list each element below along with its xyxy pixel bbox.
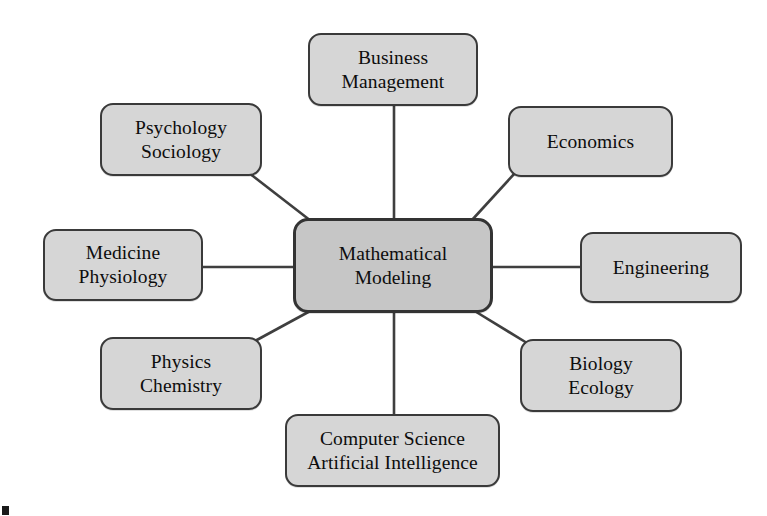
node-computer-science-ai[interactable]: Computer ScienceArtificial Intelligence [285, 414, 500, 487]
node-economics[interactable]: Economics [508, 106, 673, 177]
node-physics-chemistry-line-1: Physics [151, 350, 211, 374]
node-physics-chemistry-line-2: Chemistry [140, 374, 222, 398]
node-engineering[interactable]: Engineering [580, 232, 742, 303]
node-economics-line-1: Economics [547, 130, 635, 154]
node-biology-ecology-line-1: Biology [569, 352, 633, 376]
node-computer-science-ai-line-1: Computer Science [320, 427, 465, 451]
node-mathematical-modeling[interactable]: MathematicalModeling [293, 218, 493, 313]
node-business-management-line-2: Management [342, 70, 445, 94]
scan-artifact [2, 506, 9, 515]
node-business-management[interactable]: BusinessManagement [308, 33, 478, 106]
node-mathematical-modeling-line-1: Mathematical [339, 242, 447, 266]
node-psychology-sociology[interactable]: PsychologySociology [100, 103, 262, 176]
node-medicine-physiology[interactable]: MedicinePhysiology [43, 229, 203, 301]
edge-center-biology-ecology [473, 310, 527, 343]
node-biology-ecology[interactable]: BiologyEcology [520, 339, 682, 412]
edge-center-physics-chemistry [255, 310, 312, 341]
node-psychology-sociology-line-1: Psychology [135, 116, 227, 140]
node-computer-science-ai-line-2: Artificial Intelligence [307, 451, 478, 475]
node-medicine-physiology-line-1: Medicine [86, 241, 160, 265]
node-business-management-line-1: Business [358, 46, 428, 70]
node-medicine-physiology-line-2: Physiology [79, 265, 168, 289]
edge-center-psychology-sociology [249, 173, 311, 221]
node-engineering-line-1: Engineering [613, 256, 709, 280]
node-mathematical-modeling-line-2: Modeling [355, 266, 432, 290]
node-psychology-sociology-line-2: Sociology [141, 140, 221, 164]
node-biology-ecology-line-2: Ecology [568, 376, 634, 400]
node-physics-chemistry[interactable]: PhysicsChemistry [100, 337, 262, 410]
edge-center-economics [472, 173, 515, 220]
diagram-canvas: BusinessManagementPsychologySociologyEco… [0, 0, 767, 516]
